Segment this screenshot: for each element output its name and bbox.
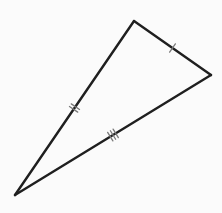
triangle-diagram <box>0 0 222 213</box>
side-left <box>15 21 134 195</box>
triangle <box>15 21 211 195</box>
